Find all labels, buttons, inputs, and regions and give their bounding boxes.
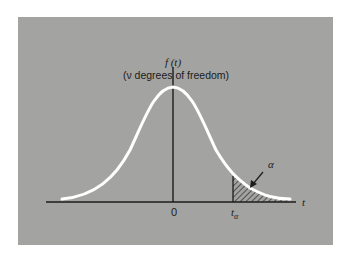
x-axis-label: t xyxy=(302,196,306,208)
alpha-arrow xyxy=(253,172,263,184)
tail-probability-label: α xyxy=(268,158,274,170)
distribution-subtitle: (ν degrees of freedom) xyxy=(123,69,229,81)
critical-value-label: tα xyxy=(231,206,239,221)
t-distribution-diagram: f (t) (ν degrees of freedom) 0 tα t α xyxy=(0,0,347,260)
origin-label: 0 xyxy=(171,206,177,218)
density-curve xyxy=(62,87,290,199)
y-axis-label: f (t) xyxy=(165,56,182,69)
